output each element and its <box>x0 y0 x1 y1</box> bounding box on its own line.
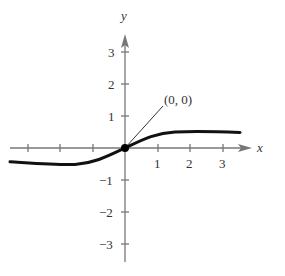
point-label: (0, 0) <box>164 92 192 107</box>
annotation-leader <box>125 106 163 148</box>
y-tick-label: −1 <box>99 173 113 188</box>
y-tick-label: 3 <box>108 45 115 60</box>
x-tick-label: 3 <box>219 156 226 171</box>
y-tick-label: 1 <box>108 109 115 124</box>
x-tick-label: 2 <box>186 156 193 171</box>
y-tick-label: −3 <box>99 237 113 252</box>
y-tick-label: 2 <box>108 77 115 92</box>
y-tick-label: −2 <box>99 205 113 220</box>
graph: y x (0, 0) 1 2 3 3 2 1 −1 −2 −3 <box>0 0 285 276</box>
origin-point <box>121 144 129 152</box>
x-tick-label: 1 <box>154 156 161 171</box>
x-axis-label: x <box>256 140 263 155</box>
y-axis-label: y <box>119 8 127 23</box>
